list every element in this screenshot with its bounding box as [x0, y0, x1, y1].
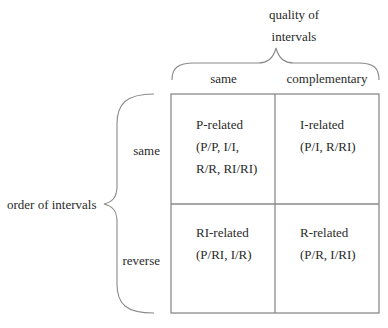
- row-header-same: same: [100, 143, 160, 159]
- cell-title: R-related: [300, 222, 356, 244]
- cell-p-related: P-related (P/P, I/I, R/R, RI/RI): [196, 114, 257, 180]
- cell-title: RI-related: [196, 222, 252, 244]
- left-brace: [104, 94, 154, 313]
- column-axis-title: quality of intervals: [254, 4, 334, 48]
- cell-title: P-related: [196, 114, 257, 136]
- cell-title: I-related: [300, 114, 356, 136]
- row-header-reverse: reverse: [100, 253, 160, 269]
- cell-members: (P/R, I/RI): [300, 244, 356, 266]
- column-header-same: same: [172, 71, 275, 87]
- cell-ri-related: RI-related (P/RI, I/R): [196, 222, 252, 266]
- cell-members: (P/RI, I/R): [196, 244, 252, 266]
- cell-r-related: R-related (P/R, I/RI): [300, 222, 356, 266]
- cell-i-related: I-related (P/I, R/RI): [300, 114, 356, 158]
- cell-members: (P/I, R/RI): [300, 136, 356, 158]
- diagram-lines: [0, 0, 388, 328]
- column-header-complementary: complementary: [275, 71, 379, 87]
- cell-members: (P/P, I/I, R/R, RI/RI): [196, 136, 257, 180]
- row-axis-title: order of intervals: [7, 197, 97, 213]
